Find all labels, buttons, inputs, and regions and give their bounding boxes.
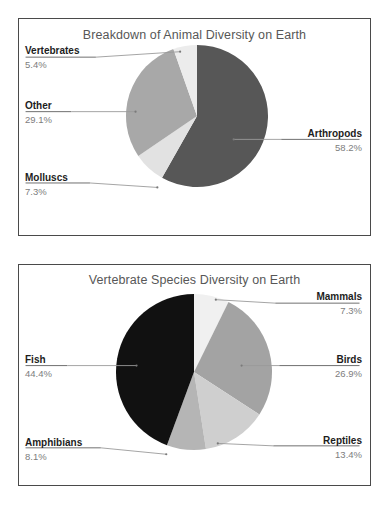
pie-label-fish-value: 44.4% xyxy=(25,367,52,379)
pie-label-vertebrates: Vertebrates 5.4% xyxy=(25,46,79,69)
pie-label-mammals: Mammals 7.3% xyxy=(316,292,362,315)
pie-label-fish: Fish 44.4% xyxy=(25,355,52,378)
pie-label-reptiles-value: 13.4% xyxy=(323,448,362,460)
pie-chart-animal-diversity xyxy=(124,43,270,189)
pie-label-other-value: 29.1% xyxy=(25,113,52,125)
pie-label-mammals-name: Mammals xyxy=(316,292,362,304)
pie-label-vertebrates-name: Vertebrates xyxy=(25,46,79,58)
pie-label-molluscs: Molluscs 7.3% xyxy=(25,173,68,196)
pie-label-arthropods: Arthropods 58.2% xyxy=(308,129,362,152)
chart-panel-vertebrate-diversity: Vertebrate Species Diversity on Earth xyxy=(18,264,371,486)
page-title-animal-diversity: Breakdown of Animal Diversity on Earth xyxy=(19,28,370,42)
pie-label-arthropods-name: Arthropods xyxy=(308,129,362,141)
pie-label-arthropods-value: 58.2% xyxy=(308,141,362,153)
pie-label-vertebrates-value: 5.4% xyxy=(25,58,79,70)
pie-chart-vertebrate-diversity xyxy=(114,291,274,453)
pie-svg-vertebrate xyxy=(114,291,274,453)
pie-label-other-name: Other xyxy=(25,101,52,113)
pie-label-birds-name: Birds xyxy=(335,355,362,367)
page-title-vertebrate-diversity: Vertebrate Species Diversity on Earth xyxy=(19,273,370,287)
pie-label-reptiles: Reptiles 13.4% xyxy=(323,436,362,459)
pie-label-amphibians: Amphibians 8.1% xyxy=(25,438,82,461)
pie-label-reptiles-name: Reptiles xyxy=(323,436,362,448)
pie-label-molluscs-value: 7.3% xyxy=(25,185,68,197)
pie-svg-animal xyxy=(124,43,270,189)
pie-label-birds-value: 26.9% xyxy=(335,367,362,379)
pie-label-amphibians-name: Amphibians xyxy=(25,438,82,450)
pie-label-birds: Birds 26.9% xyxy=(335,355,362,378)
pie-label-other: Other 29.1% xyxy=(25,101,52,124)
page-root: Breakdown of Animal Diversity on Earth xyxy=(0,0,391,505)
pie-label-amphibians-value: 8.1% xyxy=(25,450,82,462)
pie-label-mammals-value: 7.3% xyxy=(316,304,362,316)
pie-label-molluscs-name: Molluscs xyxy=(25,173,68,185)
chart-panel-animal-diversity: Breakdown of Animal Diversity on Earth xyxy=(18,18,371,236)
pie-label-fish-name: Fish xyxy=(25,355,52,367)
